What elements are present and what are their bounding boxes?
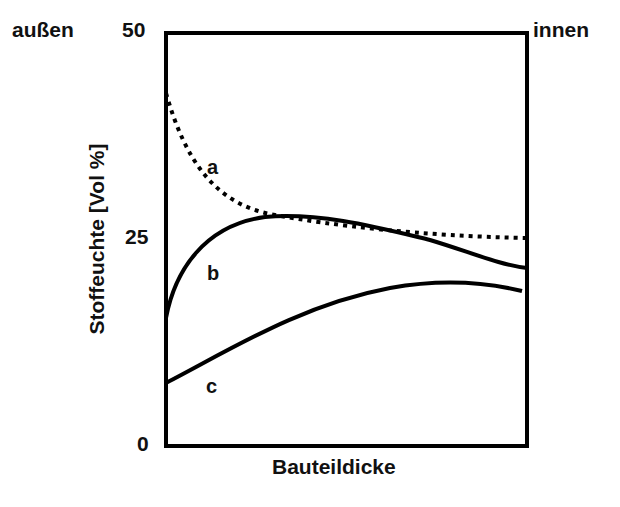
curve-a-label: a (207, 156, 218, 179)
chart-plot (0, 0, 620, 507)
plot-frame (166, 33, 527, 446)
curve-a (166, 93, 527, 238)
curve-b (166, 216, 527, 318)
curve-c (166, 283, 522, 383)
curve-b-label: b (207, 262, 219, 285)
curve-c-label: c (206, 375, 217, 398)
